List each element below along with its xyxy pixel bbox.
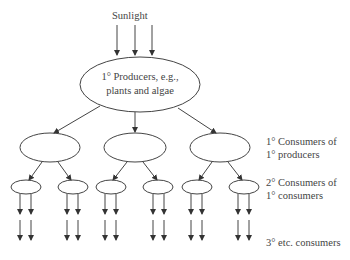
sunlight-label: Sunlight (112, 9, 148, 22)
secondary-consumer-node (143, 180, 173, 194)
producer-label-line2: plants and algae (95, 84, 185, 97)
sunlight-arrows (117, 25, 152, 55)
primary-consumer-node (20, 133, 80, 162)
trophic-diagram (0, 0, 350, 260)
secondary-consumer-node (229, 180, 259, 194)
secondary-consumer-node (182, 180, 212, 194)
secondary-consumer-node (58, 180, 88, 194)
secondary-consumer-node (11, 180, 41, 194)
level3-label: 3° etc. consumers (266, 236, 340, 249)
primary-consumer-node (190, 133, 250, 162)
level2-label-line1: 2° Consumers of (266, 176, 337, 189)
level1-label-line1: 1° Consumers of (266, 135, 337, 148)
tertiary-arrows (20, 194, 249, 240)
producer-label-line1: 1° Producers, e.g., (95, 70, 185, 83)
level2-label-line2: 1° consumers (266, 189, 323, 202)
primary-consumer-node (104, 133, 166, 162)
secondary-consumer-node (96, 180, 126, 194)
level1-label-line2: 1° producers (266, 148, 319, 161)
